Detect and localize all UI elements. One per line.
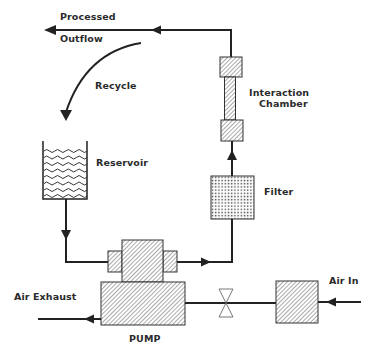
flow-arrow-left-icon <box>84 315 94 324</box>
pump-to-filter-line <box>177 219 232 267</box>
flow-arrow-down-icon <box>61 230 71 240</box>
label-air-in: Air In <box>329 275 359 286</box>
label-recycle: Recycle <box>95 80 137 91</box>
label-air-exhaust: Air Exhaust <box>14 291 76 302</box>
label-interaction: Interaction <box>249 87 309 98</box>
air-exhaust-line <box>38 315 101 324</box>
process-diagram <box>0 0 374 357</box>
air-inlet-box <box>276 281 318 323</box>
flow-arrow-left-icon <box>326 298 336 307</box>
label-outflow: Outflow <box>60 33 103 44</box>
reservoir-to-pump-line <box>61 199 108 262</box>
air-in-line <box>318 298 361 307</box>
reservoir <box>43 141 87 199</box>
label-processed: Processed <box>60 11 116 22</box>
outflow-arrowhead-icon <box>44 25 56 35</box>
label-pump: PUMP <box>129 333 161 344</box>
label-chamber: Chamber <box>259 98 308 109</box>
flow-arrow-up-icon <box>227 150 237 160</box>
flow-arrow-right-icon <box>201 258 211 267</box>
pump-base <box>101 282 185 325</box>
flow-arrow-left-icon <box>151 26 161 35</box>
filter <box>211 176 254 219</box>
label-reservoir: Reservoir <box>96 157 148 168</box>
recycle-arrowhead-icon <box>60 110 72 121</box>
interaction-chamber <box>220 57 243 141</box>
filter-to-chamber-line <box>227 141 237 176</box>
pump-head <box>108 240 177 282</box>
label-filter: Filter <box>264 186 293 197</box>
